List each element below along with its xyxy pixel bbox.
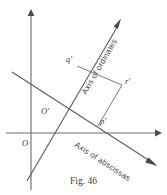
cartesian-y-axis (28, 9, 35, 190)
geometry-diagram: O O' q' r' p' Axis of ordinates Axis of … (0, 0, 167, 195)
cartesian-x-axis (6, 130, 162, 137)
figure-caption: Fig. 46 (0, 176, 167, 186)
axis-label-ordinates: Axis of ordinates (80, 37, 119, 96)
point-label-O-prime: O' (41, 106, 49, 116)
figure-container: O O' q' r' p' Axis of ordinates Axis of … (0, 0, 167, 195)
point-label-p-prime: p' (99, 116, 106, 126)
point-label-r-prime: r' (125, 76, 130, 86)
point-label-q-prime: q' (66, 54, 72, 64)
origin-label-O: O (22, 138, 28, 148)
